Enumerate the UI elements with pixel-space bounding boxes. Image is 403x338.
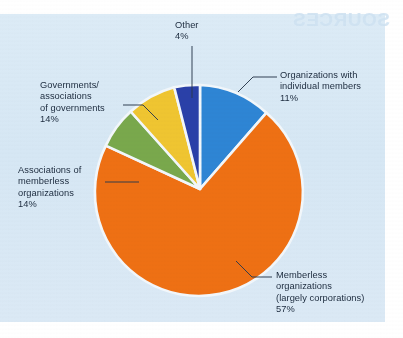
figure-stage: SOURCES Other 4% Organizations wi (0, 0, 403, 338)
label-memberless-line-2: (largely corporations) (276, 293, 364, 304)
label-memberless-organizations: Memberless organizations (largely corpor… (276, 270, 364, 316)
label-governments-line-1: associations (40, 91, 105, 102)
label-individual-members: Organizations with individual members 11… (280, 70, 361, 104)
label-governments-line-2: of governments (40, 103, 105, 114)
label-other-value: 4% (175, 31, 199, 42)
label-associations-line-1: memberless (18, 176, 81, 187)
label-memberless-line-0: Memberless (276, 270, 364, 281)
label-individual-members-value: 11% (280, 93, 361, 104)
label-individual-members-line-0: Organizations with (280, 70, 361, 81)
label-memberless-line-1: organizations (276, 281, 364, 292)
pie-slices (95, 85, 303, 296)
label-governments-value: 14% (40, 114, 105, 125)
label-individual-members-line-1: individual members (280, 81, 361, 92)
label-associations-of-memberless: Associations of memberless organizations… (18, 165, 81, 211)
label-associations-line-0: Associations of (18, 165, 81, 176)
label-associations-value: 14% (18, 199, 81, 210)
label-governments: Governments/ associations of governments… (40, 80, 105, 126)
label-governments-line-0: Governments/ (40, 80, 105, 91)
label-other: Other 4% (175, 20, 199, 43)
label-associations-line-2: organizations (18, 188, 81, 199)
leader-line-individual-members (238, 77, 277, 92)
label-other-line-0: Other (175, 20, 199, 31)
label-memberless-value: 57% (276, 304, 364, 315)
